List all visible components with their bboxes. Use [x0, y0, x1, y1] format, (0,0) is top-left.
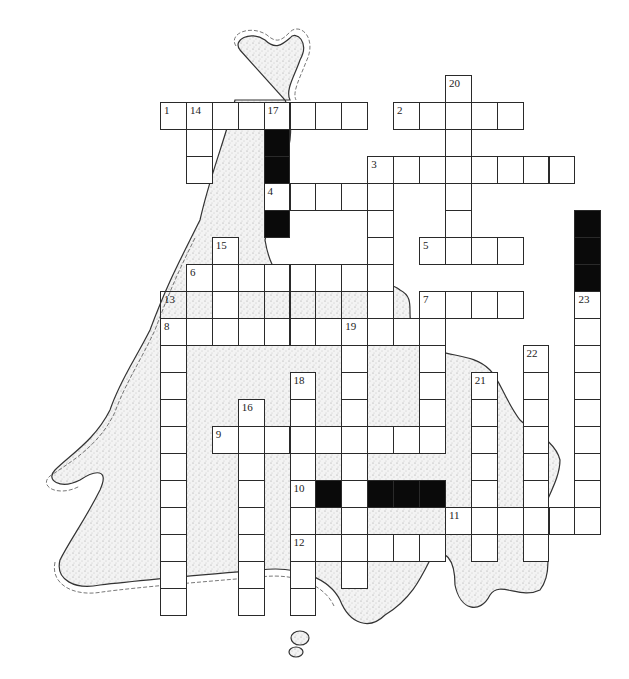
- grid-cell[interactable]: [290, 453, 317, 481]
- grid-cell[interactable]: [523, 534, 550, 562]
- grid-cell[interactable]: [160, 507, 187, 535]
- grid-cell[interactable]: 11: [445, 507, 472, 535]
- grid-cell[interactable]: [471, 480, 498, 508]
- grid-cell[interactable]: [497, 291, 524, 319]
- grid-cell[interactable]: 3: [367, 156, 394, 184]
- grid-cell[interactable]: [445, 183, 472, 211]
- grid-cell[interactable]: 7: [419, 291, 446, 319]
- grid-cell[interactable]: [341, 561, 368, 589]
- grid-cell[interactable]: [574, 426, 601, 454]
- grid-cell[interactable]: [315, 183, 342, 211]
- grid-cell[interactable]: [315, 264, 342, 292]
- grid-cell[interactable]: [523, 480, 550, 508]
- grid-cell[interactable]: [419, 345, 446, 373]
- grid-cell[interactable]: [290, 291, 317, 319]
- grid-cell[interactable]: [471, 156, 498, 184]
- grid-cell[interactable]: [574, 399, 601, 427]
- grid-cell[interactable]: [523, 507, 550, 535]
- grid-cell[interactable]: [160, 453, 187, 481]
- grid-cell[interactable]: [574, 453, 601, 481]
- grid-cell[interactable]: [238, 507, 265, 535]
- grid-cell[interactable]: [523, 156, 550, 184]
- grid-cell[interactable]: [315, 291, 342, 319]
- grid-cell[interactable]: [471, 237, 498, 265]
- grid-cell[interactable]: [523, 453, 550, 481]
- grid-cell[interactable]: [290, 588, 317, 616]
- grid-cell[interactable]: [367, 318, 394, 346]
- grid-cell[interactable]: [574, 480, 601, 508]
- grid-cell[interactable]: [238, 426, 265, 454]
- grid-cell[interactable]: 4: [264, 183, 291, 211]
- grid-cell[interactable]: [315, 318, 342, 346]
- grid-cell[interactable]: [523, 372, 550, 400]
- grid-cell[interactable]: [393, 156, 420, 184]
- grid-cell[interactable]: [238, 588, 265, 616]
- grid-cell[interactable]: [341, 453, 368, 481]
- grid-cell[interactable]: [160, 426, 187, 454]
- grid-cell[interactable]: 21: [471, 372, 498, 400]
- grid-cell[interactable]: [341, 291, 368, 319]
- grid-cell[interactable]: [341, 345, 368, 373]
- grid-cell[interactable]: [367, 237, 394, 265]
- grid-cell[interactable]: [186, 291, 213, 319]
- grid-cell[interactable]: 23: [574, 291, 601, 319]
- grid-cell[interactable]: [445, 237, 472, 265]
- grid-cell[interactable]: [367, 291, 394, 319]
- grid-cell[interactable]: [574, 507, 601, 535]
- grid-cell[interactable]: [367, 183, 394, 211]
- grid-cell[interactable]: [367, 264, 394, 292]
- grid-cell[interactable]: [471, 426, 498, 454]
- grid-cell[interactable]: [367, 534, 394, 562]
- grid-cell[interactable]: 13: [160, 291, 187, 319]
- grid-cell[interactable]: [341, 102, 368, 130]
- grid-cell[interactable]: [419, 534, 446, 562]
- grid-cell[interactable]: [341, 507, 368, 535]
- grid-cell[interactable]: 2: [393, 102, 420, 130]
- grid-cell[interactable]: 15: [212, 237, 239, 265]
- grid-cell[interactable]: [549, 507, 576, 535]
- grid-cell[interactable]: [471, 453, 498, 481]
- grid-cell[interactable]: [341, 183, 368, 211]
- grid-cell[interactable]: 5: [419, 237, 446, 265]
- grid-cell[interactable]: [341, 372, 368, 400]
- grid-cell[interactable]: [238, 291, 265, 319]
- grid-cell[interactable]: [290, 507, 317, 535]
- grid-cell[interactable]: [264, 318, 291, 346]
- grid-cell[interactable]: [497, 102, 524, 130]
- grid-cell[interactable]: [419, 318, 446, 346]
- grid-cell[interactable]: [160, 399, 187, 427]
- grid-cell[interactable]: [238, 534, 265, 562]
- grid-cell[interactable]: [549, 156, 576, 184]
- grid-cell[interactable]: [419, 102, 446, 130]
- grid-cell[interactable]: [445, 210, 472, 238]
- grid-cell[interactable]: [393, 318, 420, 346]
- grid-cell[interactable]: [419, 399, 446, 427]
- grid-cell[interactable]: [186, 318, 213, 346]
- grid-cell[interactable]: [290, 183, 317, 211]
- grid-cell[interactable]: [160, 480, 187, 508]
- grid-cell[interactable]: 9: [212, 426, 239, 454]
- grid-cell[interactable]: [264, 426, 291, 454]
- grid-cell[interactable]: 10: [290, 480, 317, 508]
- grid-cell[interactable]: [445, 156, 472, 184]
- grid-cell[interactable]: [238, 480, 265, 508]
- grid-cell[interactable]: [497, 507, 524, 535]
- grid-cell[interactable]: [238, 102, 265, 130]
- grid-cell[interactable]: [238, 453, 265, 481]
- grid-cell[interactable]: [523, 399, 550, 427]
- grid-cell[interactable]: 19: [341, 318, 368, 346]
- grid-cell[interactable]: [290, 561, 317, 589]
- grid-cell[interactable]: [497, 237, 524, 265]
- grid-cell[interactable]: [160, 588, 187, 616]
- grid-cell[interactable]: 22: [523, 345, 550, 373]
- grid-cell[interactable]: [471, 534, 498, 562]
- grid-cell[interactable]: [445, 291, 472, 319]
- grid-cell[interactable]: [341, 426, 368, 454]
- grid-cell[interactable]: 1: [160, 102, 187, 130]
- grid-cell[interactable]: [160, 372, 187, 400]
- grid-cell[interactable]: [315, 426, 342, 454]
- grid-cell[interactable]: [212, 291, 239, 319]
- grid-cell[interactable]: 6: [186, 264, 213, 292]
- grid-cell[interactable]: [419, 156, 446, 184]
- grid-cell[interactable]: [523, 426, 550, 454]
